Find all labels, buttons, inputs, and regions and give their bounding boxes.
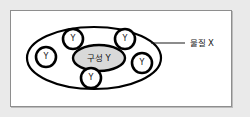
diagram-graphics xyxy=(0,0,250,117)
particle-label-4: Y xyxy=(140,59,145,67)
substance-x-label: 물질 X xyxy=(190,39,214,48)
particle-label-3: Y xyxy=(123,35,128,43)
composition-ellipse-label: 구성 Y xyxy=(87,54,110,63)
figure-canvas: 구성 Y Y Y Y Y Y 물질 X xyxy=(0,0,250,117)
particle-label-5: Y xyxy=(89,74,94,82)
particle-label-2: Y xyxy=(71,35,76,43)
particle-label-1: Y xyxy=(44,53,49,61)
